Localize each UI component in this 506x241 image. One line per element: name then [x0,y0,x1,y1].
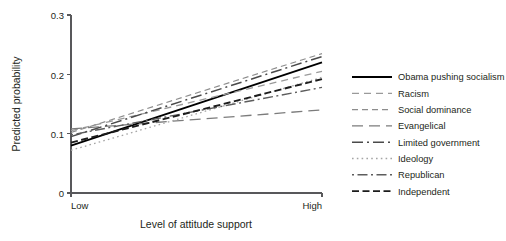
series-line-obama-pushing-socialism [71,62,322,145]
x-tick-label-low: Low [71,200,89,211]
x-tick-group [71,193,322,197]
x-axis-title: Level of attitude support [140,218,252,230]
figure-container: 0.3 0.2 0.1 0 Low High Level of attitude… [0,0,506,241]
y-tick-label-0.1: 0.1 [51,129,64,140]
series-line-limited-government [71,57,322,137]
series-line-evangelical [71,110,322,129]
y-tick-label-0.2: 0.2 [51,70,64,81]
y-axis-title: Predicted probability [10,56,22,152]
series-line-racism [71,71,322,130]
x-tick-label-high: High [302,200,322,211]
legend-label-social-dominance: Social dominance [398,105,471,115]
series-line-ideology [71,77,322,150]
y-tick-label-0.3: 0.3 [51,10,64,21]
line-chart: 0.3 0.2 0.1 0 Low High Level of attitude… [0,0,506,241]
legend-label-ideology: Ideology [398,154,434,164]
legend: Obama pushing socialismRacismSocial domi… [352,72,505,196]
legend-label-evangelical: Evangelical [398,121,446,131]
series-line-social-dominance [71,54,322,133]
y-tick-label-0: 0 [59,188,64,199]
legend-label-racism: Racism [398,89,429,99]
legend-label-obama-pushing-socialism: Obama pushing socialism [398,72,505,82]
legend-label-independent: Independent [398,187,450,197]
legend-label-republican: Republican [398,170,445,180]
y-tick-group [67,15,71,193]
legend-label-limited-government: Limited government [398,138,480,148]
series-group [71,54,322,151]
